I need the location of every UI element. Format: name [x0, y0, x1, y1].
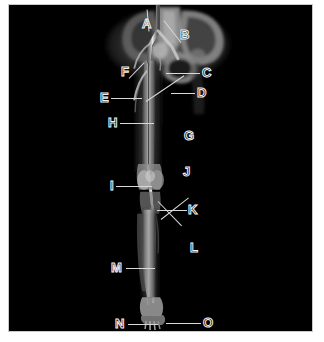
label-I: I	[110, 179, 114, 192]
leader-line-C	[166, 73, 200, 74]
label-J: J	[183, 165, 190, 178]
leader-line-D	[171, 93, 195, 94]
leader-line-N	[128, 324, 158, 325]
knee-joint	[137, 164, 164, 214]
label-L: L	[190, 241, 198, 254]
label-C: C	[202, 66, 211, 79]
radiograph-figure: ABCDEFGHIJKLMNO	[0, 0, 324, 342]
leader-line-I	[116, 186, 152, 187]
leader-line-E	[111, 98, 142, 99]
leader-line-H	[120, 123, 154, 124]
label-K: K	[188, 203, 197, 216]
label-H: H	[108, 116, 117, 129]
label-F: F	[121, 65, 129, 78]
image-frame: ABCDEFGHIJKLMNO	[8, 4, 313, 332]
leader-line-O	[166, 323, 201, 324]
label-B: B	[180, 28, 189, 41]
angiogram-image	[9, 5, 312, 331]
label-N: N	[115, 317, 124, 330]
label-G: G	[184, 129, 194, 142]
label-O: O	[203, 316, 213, 329]
label-A: A	[142, 17, 151, 30]
label-M: M	[111, 261, 122, 274]
label-E: E	[100, 91, 109, 104]
label-D: D	[197, 86, 206, 99]
leader-line-M	[126, 268, 155, 269]
